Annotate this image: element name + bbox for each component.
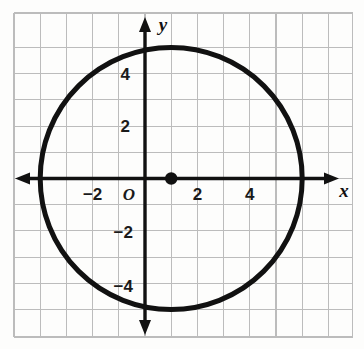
origin-label: O (123, 185, 135, 204)
figure-background (0, 0, 364, 349)
graph-svg: −2 2 4 4 2 −2 −4 O x y (0, 0, 364, 349)
y-tick-label-neg2: −2 (114, 223, 133, 242)
x-tick-label-2: 2 (193, 185, 202, 204)
y-tick-label-4: 4 (121, 65, 131, 84)
x-axis-label: x (338, 180, 349, 201)
y-axis-label: y (157, 14, 168, 35)
x-tick-label-neg2: −2 (83, 185, 102, 204)
y-tick-label-2: 2 (121, 117, 130, 136)
x-tick-label-4: 4 (245, 185, 255, 204)
y-tick-label-neg4: −4 (114, 277, 134, 296)
center-point-marker (165, 172, 177, 184)
coordinate-plane-figure: −2 2 4 4 2 −2 −4 O x y (0, 0, 364, 349)
